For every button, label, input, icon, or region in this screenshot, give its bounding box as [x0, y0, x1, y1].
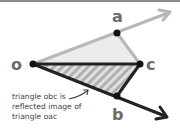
label-a: a: [112, 7, 123, 26]
label-b: b: [112, 105, 123, 124]
label-o: o: [11, 55, 22, 74]
point-a: [114, 30, 121, 37]
point-o: [30, 61, 37, 68]
caption: triangle obc is reflected image of trian…: [12, 92, 92, 122]
point-b: [114, 93, 121, 100]
label-c: c: [146, 55, 155, 74]
point-c: [137, 61, 144, 68]
caption-line-1: triangle obc is: [12, 92, 92, 102]
caption-line-2: reflected image of: [12, 102, 92, 112]
caption-line-3: triangle oac: [12, 112, 92, 122]
